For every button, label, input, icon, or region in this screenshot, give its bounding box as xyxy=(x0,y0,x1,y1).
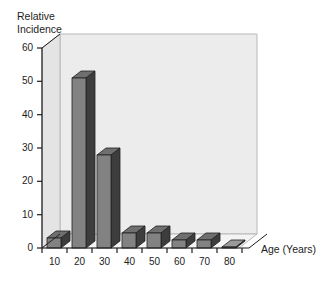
x-tick-label-50: 50 xyxy=(143,256,167,268)
x-tick-label-20: 20 xyxy=(68,256,92,268)
y-tick-label-60: 60 xyxy=(13,42,33,54)
x-tick-label-70: 70 xyxy=(193,256,217,268)
left-wall xyxy=(42,34,60,248)
x-ticks xyxy=(42,248,242,253)
x-tick-label-40: 40 xyxy=(118,256,142,268)
y-axis-title: Relative Incidence xyxy=(17,10,62,36)
y-axis-title-line1: Relative xyxy=(17,10,62,23)
x-tick-label-80: 80 xyxy=(218,256,242,268)
y-tick-label-50: 50 xyxy=(13,75,33,87)
chart-graphics xyxy=(0,0,330,282)
x-axis-title: Age (Years) xyxy=(261,243,316,255)
relative-incidence-bar-chart: Relative Incidence Age (Years) 0 10 20 3… xyxy=(0,0,330,282)
y-tick-label-0: 0 xyxy=(13,242,33,254)
x-tick-label-10: 10 xyxy=(43,256,67,268)
y-tick-label-30: 30 xyxy=(13,142,33,154)
y-axis-title-line2: Incidence xyxy=(17,23,62,36)
bar-30 xyxy=(97,148,120,248)
x-tick-label-30: 30 xyxy=(93,256,117,268)
y-tick-label-40: 40 xyxy=(13,109,33,121)
y-tick-label-10: 10 xyxy=(13,209,33,221)
y-tick-label-20: 20 xyxy=(13,175,33,187)
x-tick-label-60: 60 xyxy=(168,256,192,268)
y-ticks xyxy=(37,48,42,248)
bar-20 xyxy=(72,71,95,248)
